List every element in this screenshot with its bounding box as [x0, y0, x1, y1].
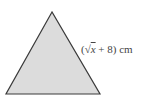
label-rest: + 8) cm [96, 43, 133, 55]
side-length-label: (√x + 8) cm [81, 43, 133, 55]
